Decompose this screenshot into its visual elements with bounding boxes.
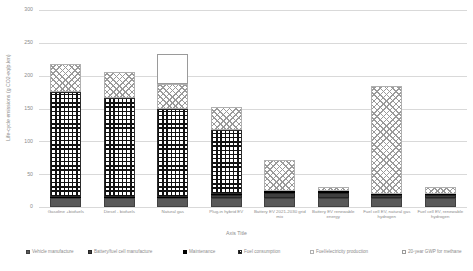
bar-segment[interactable]	[318, 191, 349, 192]
x-axis-title: Axis Title	[0, 230, 473, 236]
x-axis-tick-label: Battery EV 2021-2030 grid mix	[253, 209, 307, 219]
y-axis-tick-labels: 050100150200250300	[0, 10, 36, 207]
bar-column[interactable]	[50, 10, 81, 207]
x-axis-tick-label: Battery EV renewable energy	[307, 209, 361, 219]
plot-area	[39, 10, 467, 207]
legend-swatch-icon	[183, 250, 187, 254]
legend-item[interactable]: Vehicle manufacture	[26, 249, 74, 254]
bar-segment[interactable]	[50, 92, 81, 196]
y-axis-tick-label: 50	[27, 172, 33, 177]
legend-swatch-icon	[26, 250, 30, 254]
bar-segment[interactable]	[425, 194, 456, 195]
bar-segment[interactable]	[264, 198, 295, 207]
legend-item[interactable]: 20-year GWP for methane	[402, 249, 462, 254]
bar-segment[interactable]	[211, 195, 242, 198]
bar-segment[interactable]	[157, 84, 188, 110]
x-axis-tick-label: Fuel cell EV, renewable hydrogen	[414, 209, 468, 219]
bar-segment[interactable]	[104, 98, 135, 197]
legend-item-label: Fuel/electricity production	[316, 249, 368, 254]
x-axis-tick-label: Natural gas	[146, 209, 200, 214]
bar-column[interactable]	[104, 10, 135, 207]
legend-item-label: Battery/fuel cell manufacture	[94, 249, 152, 254]
legend-item[interactable]: Battery/fuel cell manufacture	[88, 249, 152, 254]
bar-segment[interactable]	[50, 198, 81, 207]
bar-column[interactable]	[264, 10, 295, 207]
bar-segment[interactable]	[425, 195, 456, 198]
bar-segment[interactable]	[211, 194, 242, 195]
bar-segment[interactable]	[318, 198, 349, 207]
chart-legend: Vehicle manufactureBattery/fuel cell man…	[0, 247, 473, 271]
bar-column[interactable]	[425, 10, 456, 207]
bar-segment[interactable]	[104, 72, 135, 98]
bar-segment[interactable]	[264, 160, 295, 192]
x-axis-line	[39, 207, 467, 208]
bar-column[interactable]	[318, 10, 349, 207]
legend-item[interactable]: Fuel/electricity production	[310, 249, 368, 254]
legend-swatch-icon	[238, 250, 242, 254]
y-axis-tick-label: 100	[24, 139, 33, 144]
bar-segment[interactable]	[425, 198, 456, 207]
y-axis-tick-label: 300	[24, 7, 33, 12]
x-axis-tick-label: Plug-in hybrid EV	[200, 209, 254, 214]
bar-segment[interactable]	[211, 107, 242, 130]
bar-column[interactable]	[371, 10, 402, 207]
y-axis-tick-label: 0	[30, 204, 33, 209]
bar-segment[interactable]	[425, 187, 456, 194]
legend-item-label: Fuel consumption	[244, 249, 280, 254]
legend-item[interactable]: Maintenance	[183, 249, 215, 254]
x-axis-tick-label: Diesel - biofuels	[93, 209, 147, 214]
bar-segment[interactable]	[50, 64, 81, 92]
legend-item-label: Maintenance	[189, 249, 215, 254]
legend-swatch-icon	[310, 250, 314, 254]
y-axis-tick-label: 200	[24, 73, 33, 78]
bar-segment[interactable]	[157, 198, 188, 207]
y-axis-tick-label: 150	[24, 106, 33, 111]
bar-segment[interactable]	[104, 198, 135, 207]
bar-segment[interactable]	[211, 198, 242, 207]
bar-segment[interactable]	[371, 195, 402, 198]
bar-segment[interactable]	[371, 86, 402, 194]
bar-segment[interactable]	[104, 197, 135, 198]
bar-segment[interactable]	[50, 197, 81, 198]
chart-container: Life-cycle emissions (g CO2-eq/p.km) 050…	[0, 0, 473, 271]
legend-swatch-icon	[88, 250, 92, 254]
bar-segment[interactable]	[264, 193, 295, 198]
x-axis-tick-label: Fuel cell EV, natural gas hydrogen	[360, 209, 414, 219]
bar-segment[interactable]	[318, 193, 349, 198]
y-axis-tick-label: 250	[24, 40, 33, 45]
bar-column[interactable]	[211, 10, 242, 207]
legend-item-label: 20-year GWP for methane	[408, 249, 462, 254]
x-axis-tick-label: Gasoline +biofuels	[39, 209, 93, 214]
legend-item[interactable]: Fuel consumption	[238, 249, 280, 254]
bar-segment[interactable]	[264, 191, 295, 192]
bar-segment[interactable]	[371, 194, 402, 195]
bar-segment[interactable]	[211, 130, 242, 194]
legend-item-label: Vehicle manufacture	[32, 249, 74, 254]
legend-swatch-icon	[402, 250, 406, 254]
bar-segment[interactable]	[371, 198, 402, 207]
bar-column[interactable]	[157, 10, 188, 207]
bar-segment[interactable]	[157, 109, 188, 196]
bar-segment[interactable]	[157, 197, 188, 198]
bar-segment[interactable]	[318, 187, 349, 192]
bar-segment[interactable]	[157, 54, 188, 84]
